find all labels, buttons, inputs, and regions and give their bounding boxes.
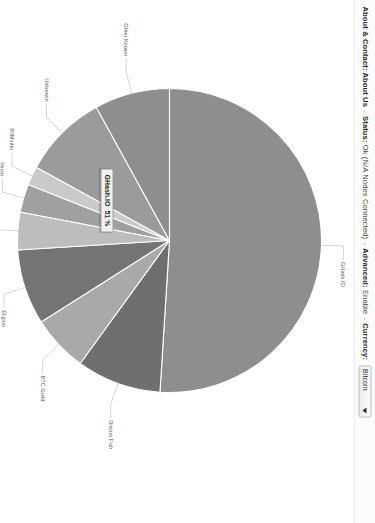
rotated-page-content: About & Contact: About Us - Status: Ok (… xyxy=(0,0,375,523)
slice-tooltip: GHash.IO 51 % xyxy=(100,168,113,232)
leader-line xyxy=(319,245,343,260)
tooltip-series-value: 51 % xyxy=(103,210,110,226)
status-value: Ok (N/A Nodes Connected) xyxy=(360,144,369,238)
tooltip-series-name: GHash.IO xyxy=(103,174,110,206)
chevron-down-icon xyxy=(363,407,367,413)
pie-slice-label: Discus Fish xyxy=(107,420,113,449)
leader-line xyxy=(12,152,33,176)
leader-line xyxy=(2,178,25,199)
pie-slice-label: GHash.IO xyxy=(340,262,346,288)
leader-line xyxy=(110,382,118,418)
advanced-label: Advanced: xyxy=(360,247,369,287)
site-navbar: About & Contact: About Us - Status: Ok (… xyxy=(353,0,375,523)
pie-slice-label: Unknown xyxy=(43,78,49,101)
nav-separator-1: - xyxy=(360,109,369,114)
pie-slice-label: BitMinter xyxy=(9,128,15,150)
pie-chart-svg: GHash.IODiscus FishBTC GuildEligiusPolmi… xyxy=(0,0,353,523)
leader-line xyxy=(0,215,19,231)
nav-link-advanced-enable[interactable]: Enable xyxy=(360,289,369,313)
pie-slice-label: Slush xyxy=(0,162,5,176)
navbar-text-run: About & Contact: About Us - Status: Ok (… xyxy=(360,6,369,360)
hashrate-pie-chart: GHash.IODiscus FishBTC GuildEligiusPolmi… xyxy=(0,0,353,523)
leader-line xyxy=(126,58,132,95)
about-contact-label: About & Contact: xyxy=(360,6,369,70)
currency-label: Currency: xyxy=(360,323,369,360)
leader-line xyxy=(46,103,63,134)
leader-line xyxy=(4,287,26,308)
pie-slice-label: Eligius xyxy=(1,310,7,327)
pie-slice[interactable] xyxy=(159,88,321,392)
nav-separator-3: - xyxy=(360,316,369,321)
pie-slice-label: Other Known xyxy=(123,23,129,56)
page-root: About & Contact: About Us - Status: Ok (… xyxy=(0,0,375,523)
leader-line xyxy=(42,343,59,373)
currency-select[interactable]: Bitcoin xyxy=(358,365,371,417)
status-label: Status: xyxy=(360,116,369,142)
nav-link-about-us[interactable]: About Us xyxy=(360,72,369,107)
currency-select-value: Bitcoin xyxy=(361,369,368,391)
nav-separator-2: - xyxy=(360,241,369,246)
pie-slice-label: BTC Guild xyxy=(39,375,45,401)
